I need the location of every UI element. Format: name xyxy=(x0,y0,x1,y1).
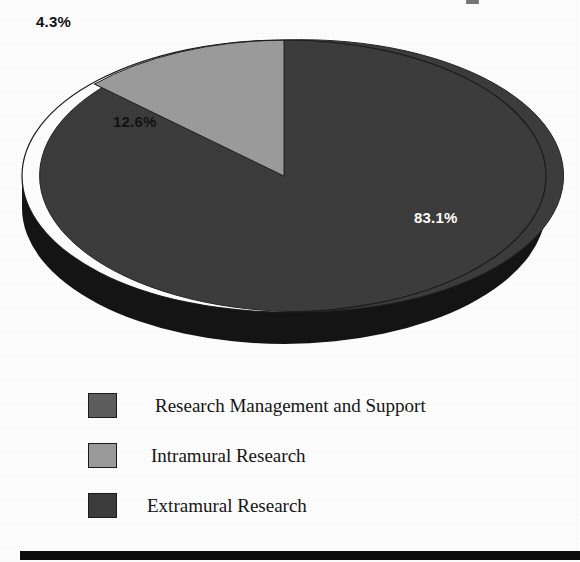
legend-swatch-research-management-and-support xyxy=(88,393,117,418)
footer-rule xyxy=(20,551,580,560)
pie-chart-page: 4.3% 12.6% 83.1% Research Management and… xyxy=(0,0,580,562)
pie-chart: 4.3% 12.6% 83.1% xyxy=(0,0,580,360)
slice-label-extramural-research: 83.1% xyxy=(414,209,458,226)
legend-label-intramural-research: Intramural Research xyxy=(151,446,306,465)
legend-item-research-management-and-support[interactable]: Research Management and Support xyxy=(88,380,528,430)
chart-legend: Research Management and Support Intramur… xyxy=(88,380,528,530)
pie-top-face xyxy=(40,40,564,312)
legend-label-extramural-research: Extramural Research xyxy=(147,496,307,515)
legend-item-extramural-research[interactable]: Extramural Research xyxy=(88,480,528,530)
legend-label-research-management-and-support: Research Management and Support xyxy=(155,396,426,415)
pie-chart-svg xyxy=(0,0,580,360)
slice-label-intramural-research: 12.6% xyxy=(113,113,157,130)
legend-swatch-intramural-research xyxy=(88,443,117,468)
slice-label-research-management-and-support: 4.3% xyxy=(36,13,71,30)
legend-item-intramural-research[interactable]: Intramural Research xyxy=(88,430,528,480)
legend-swatch-extramural-research xyxy=(88,493,117,518)
